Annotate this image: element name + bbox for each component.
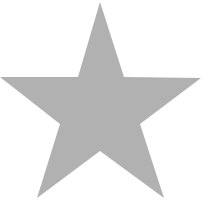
canvas: [0, 0, 218, 208]
star-icon: [0, 0, 218, 208]
star-shape: [0, 2, 201, 198]
